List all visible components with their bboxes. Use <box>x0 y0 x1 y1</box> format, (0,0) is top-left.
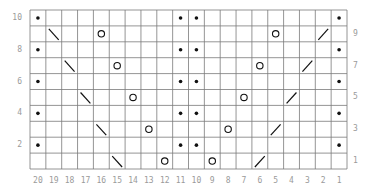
column-label: 12 <box>157 176 173 185</box>
row-label-right: 3 <box>353 124 369 134</box>
column-label: 15 <box>109 176 125 185</box>
row-label-right: 5 <box>353 92 369 102</box>
purl-dot-icon <box>179 80 183 84</box>
column-label: 5 <box>268 176 284 185</box>
purl-dot-icon <box>179 143 183 147</box>
column-label: 14 <box>125 176 141 185</box>
column-label: 6 <box>252 176 268 185</box>
column-label: 18 <box>62 176 78 185</box>
chart-grid <box>0 0 370 185</box>
row-label-right: 1 <box>353 156 369 166</box>
row-label-left: 8 <box>0 45 22 55</box>
column-label: 13 <box>141 176 157 185</box>
column-label: 20 <box>30 176 46 185</box>
row-label-left: 4 <box>0 108 22 118</box>
column-label: 4 <box>284 176 300 185</box>
column-label: 10 <box>188 176 204 185</box>
column-label: 11 <box>173 176 189 185</box>
column-label: 3 <box>299 176 315 185</box>
row-label-left: 2 <box>0 140 22 150</box>
column-label: 17 <box>77 176 93 185</box>
purl-dot-icon <box>195 48 199 52</box>
column-label: 1 <box>331 176 347 185</box>
purl-dot-icon <box>36 80 40 84</box>
purl-dot-icon <box>36 112 40 116</box>
row-label-left: 6 <box>0 77 22 87</box>
row-label-right: 9 <box>353 29 369 39</box>
grid-lines <box>30 10 347 169</box>
purl-dot-icon <box>195 143 199 147</box>
purl-dot-icon <box>179 16 183 20</box>
purl-dot-icon <box>195 16 199 20</box>
row-label-left: 10 <box>0 13 22 23</box>
column-label: 7 <box>236 176 252 185</box>
purl-dot-icon <box>337 80 341 84</box>
knitting-chart: 1086429753120191817161514131211109876543… <box>0 0 370 185</box>
row-label-right: 7 <box>353 61 369 71</box>
purl-dot-icon <box>195 112 199 116</box>
purl-dot-icon <box>195 80 199 84</box>
column-label: 16 <box>93 176 109 185</box>
purl-dot-icon <box>337 48 341 52</box>
purl-dot-icon <box>179 48 183 52</box>
purl-dot-icon <box>337 143 341 147</box>
column-label: 8 <box>220 176 236 185</box>
purl-dot-icon <box>36 16 40 20</box>
purl-dot-icon <box>36 48 40 52</box>
column-label: 19 <box>46 176 62 185</box>
purl-dot-icon <box>179 112 183 116</box>
column-label: 2 <box>315 176 331 185</box>
purl-dot-icon <box>337 112 341 116</box>
purl-dot-icon <box>337 16 341 20</box>
column-label: 9 <box>204 176 220 185</box>
purl-dot-icon <box>36 143 40 147</box>
